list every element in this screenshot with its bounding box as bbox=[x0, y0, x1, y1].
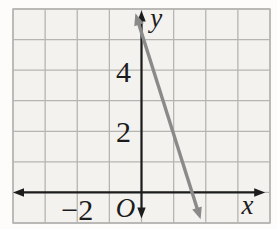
x-tick-label-neg2: −2 bbox=[61, 193, 93, 226]
y-axis-label: y bbox=[147, 3, 162, 33]
coordinate-plane-figure: yxO42−2 bbox=[0, 0, 277, 229]
x-axis-label: x bbox=[241, 190, 254, 220]
y-tick-label-2: 2 bbox=[116, 115, 131, 148]
graph-svg: yxO42−2 bbox=[0, 0, 277, 229]
origin-label: O bbox=[116, 193, 136, 223]
y-tick-label-4: 4 bbox=[116, 55, 131, 88]
